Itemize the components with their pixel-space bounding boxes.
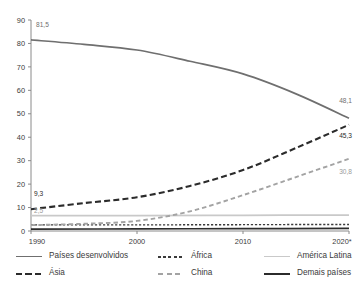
legend-swatch — [16, 273, 42, 275]
legend-swatch — [158, 256, 184, 258]
series-line — [31, 125, 349, 209]
legend-label: Países desenvolvidos — [49, 252, 128, 260]
legend-item[interactable]: Países desenvolvidos — [16, 248, 158, 265]
y-tick-label: 40 — [17, 133, 25, 142]
x-tick-label: 2010 — [235, 237, 251, 246]
legend-swatch — [264, 256, 290, 257]
legend-label: Demais países — [297, 269, 351, 277]
y-tick-label: 90 — [17, 16, 25, 25]
y-tick-label: 20 — [17, 180, 25, 189]
y-tick-label: 10 — [17, 203, 25, 212]
legend-label: África — [191, 252, 212, 260]
x-axis-ticks: 1990200020102020* — [29, 231, 352, 246]
data-label-asia-end: 45,3 — [339, 132, 352, 139]
y-tick-label: 70 — [17, 63, 25, 72]
data-label-dev-start: 81,5 — [36, 21, 49, 28]
y-tick-label: 80 — [17, 39, 25, 48]
legend-swatch — [16, 256, 42, 257]
legend-item[interactable]: África — [158, 248, 264, 265]
data-label-dev-end: 48,1 — [339, 97, 352, 104]
x-tick-label: 2020* — [332, 237, 351, 246]
legend-item[interactable]: China — [158, 265, 264, 282]
chart-svg: 0102030405060708090 1990200020102020* 81… — [0, 0, 363, 250]
legend-item[interactable]: Ásia — [16, 265, 158, 282]
series-group — [31, 40, 349, 229]
plot-area: 0102030405060708090 1990200020102020* 81… — [0, 0, 363, 250]
data-label-china-start: 2,5 — [34, 207, 43, 214]
legend-item[interactable]: Demais países — [264, 265, 363, 282]
line-chart: 0102030405060708090 1990200020102020* 81… — [0, 0, 363, 286]
y-tick-label: 60 — [17, 86, 25, 95]
legend-label: Ásia — [49, 269, 65, 277]
data-label-china-end: 30,8 — [339, 168, 352, 175]
legend-swatch — [158, 273, 184, 275]
y-tick-label: 30 — [17, 156, 25, 165]
legend-label: China — [191, 269, 212, 277]
legend-swatch — [264, 273, 290, 275]
y-tick-label: 0 — [21, 227, 25, 236]
y-tick-label: 50 — [17, 109, 25, 118]
series-line — [31, 228, 349, 229]
legend-label: América Latina — [297, 252, 352, 260]
x-tick-label: 1990 — [29, 237, 45, 246]
x-tick-label: 2000 — [129, 237, 145, 246]
legend-item[interactable]: América Latina — [264, 248, 363, 265]
series-line — [31, 40, 349, 118]
chart-legend: Países desenvolvidosÁfricaAmérica Latina… — [0, 248, 363, 286]
y-axis-ticks: 0102030405060708090 — [17, 16, 31, 236]
data-label-asia-start: 9,3 — [34, 190, 43, 197]
